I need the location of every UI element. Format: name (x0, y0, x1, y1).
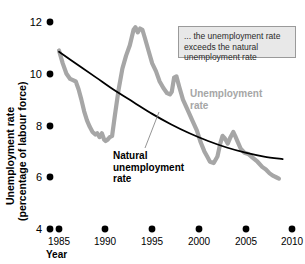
x-tick-dot-2000 (196, 226, 203, 233)
callout-leader-line (145, 112, 159, 148)
y-tick-label-4: 4 (22, 223, 42, 235)
x-tick-label-2010: 2010 (272, 236, 305, 247)
y-tick-dot-6 (47, 174, 54, 181)
x-tick-label-1990: 1990 (85, 236, 125, 247)
y-tick-dot-10 (47, 71, 54, 78)
unemployment-chart: 12 10 8 6 4 1985 1990 1995 2000 2005 201… (0, 0, 305, 264)
x-tick-dot-1995 (149, 226, 156, 233)
x-tick-dot-2010 (289, 226, 296, 233)
y-tick-dot-4 (47, 226, 54, 233)
x-tick-dot-1985 (56, 226, 63, 233)
y-axis-title-line-1: Unemployment rate (4, 107, 16, 205)
callout-text: ... the unemployment rate exceeds the na… (184, 31, 280, 62)
x-tick-label-1985: 1985 (39, 236, 79, 247)
x-tick-label-2000: 2000 (179, 236, 219, 247)
x-tick-dot-1990 (102, 226, 109, 233)
x-axis-title: Year (46, 249, 67, 260)
y-tick-label-12: 12 (22, 16, 42, 28)
x-tick-dot-2005 (243, 226, 250, 233)
x-tick-label-2005: 2005 (226, 236, 266, 247)
series-label-unemployment-rate: Unemployment rate (190, 88, 280, 111)
x-axis-tick-dots (56, 226, 296, 233)
series-label-natural-rate: Natural unemployment rate (113, 150, 198, 185)
x-tick-label-1995: 1995 (132, 236, 172, 247)
callout-exceeds-natural-rate: ... the unemployment rate exceeds the na… (178, 26, 296, 58)
y-tick-dot-8 (47, 123, 54, 130)
natural-label-line-2: unemployment (113, 162, 184, 173)
natural-label-line-3: rate (113, 173, 131, 184)
series-label-unemployment-text: Unemployment rate (190, 88, 262, 111)
y-axis-tick-dots (47, 19, 54, 233)
y-axis-title: Unemployment rate (percentage of labour … (4, 91, 28, 221)
y-tick-label-10: 10 (22, 68, 42, 80)
y-tick-dot-12 (47, 19, 54, 26)
y-axis-title-line-2: (percentage of labour force) (16, 82, 28, 221)
natural-label-line-1: Natural (113, 150, 147, 161)
